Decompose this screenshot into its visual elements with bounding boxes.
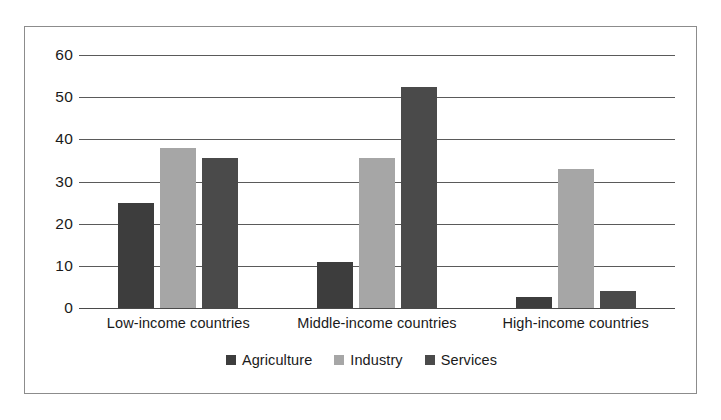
y-tick-label: 60 bbox=[29, 47, 73, 63]
y-tick-label: 10 bbox=[29, 258, 73, 274]
legend-swatch-icon bbox=[226, 355, 236, 365]
legend-label: Industry bbox=[350, 353, 402, 368]
bar-agriculture-2[interactable] bbox=[516, 297, 552, 308]
gridline-40 bbox=[79, 139, 675, 140]
y-axis-tick-labels: 0102030405060 bbox=[25, 55, 73, 308]
y-tick-label: 0 bbox=[29, 300, 73, 316]
bar-services-2[interactable] bbox=[600, 291, 636, 308]
legend-item-services[interactable]: Services bbox=[425, 353, 497, 368]
bar-agriculture-0[interactable] bbox=[118, 203, 154, 308]
legend-label: Services bbox=[441, 353, 497, 368]
chart-frame: 0102030405060 Low-income countriesMiddle… bbox=[24, 26, 697, 394]
legend-item-industry[interactable]: Industry bbox=[334, 353, 402, 368]
x-tick-label: Middle-income countries bbox=[297, 315, 456, 331]
y-tick-label: 50 bbox=[29, 89, 73, 105]
gridline-60 bbox=[79, 55, 675, 56]
bar-industry-2[interactable] bbox=[558, 169, 594, 308]
x-tick-label: Low-income countries bbox=[107, 315, 250, 331]
legend-item-agriculture[interactable]: Agriculture bbox=[226, 353, 312, 368]
y-tick-label: 40 bbox=[29, 132, 73, 148]
legend-label: Agriculture bbox=[242, 353, 312, 368]
y-tick-label: 20 bbox=[29, 216, 73, 232]
gridline-0 bbox=[79, 308, 675, 309]
bar-services-0[interactable] bbox=[202, 158, 238, 308]
y-tick-label: 30 bbox=[29, 174, 73, 190]
legend-swatch-icon bbox=[425, 355, 435, 365]
bar-industry-0[interactable] bbox=[160, 148, 196, 308]
plot-area bbox=[79, 55, 675, 308]
bar-industry-1[interactable] bbox=[359, 158, 395, 308]
chart-figure: 0102030405060 Low-income countriesMiddle… bbox=[0, 0, 721, 420]
bar-agriculture-1[interactable] bbox=[317, 262, 353, 308]
x-tick-label: High-income countries bbox=[502, 315, 648, 331]
legend-swatch-icon bbox=[334, 355, 344, 365]
gridline-50 bbox=[79, 97, 675, 98]
bar-services-1[interactable] bbox=[401, 87, 437, 308]
chart-legend: AgricultureIndustryServices bbox=[25, 353, 698, 368]
